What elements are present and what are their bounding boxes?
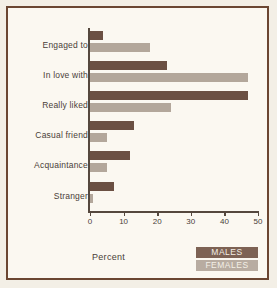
bar-females-casual-friend: [90, 133, 107, 142]
chart-legend: MALES FEMALES: [196, 247, 258, 273]
bar-males-stranger: [90, 182, 114, 191]
x-tick-label-10: 10: [119, 217, 128, 226]
bar-males-engaged-to: [90, 31, 103, 40]
x-tick-30: [191, 211, 192, 216]
x-tick-label-0: 0: [88, 217, 92, 226]
x-tick-label-50: 50: [254, 217, 263, 226]
x-tick-20: [157, 211, 158, 216]
x-axis-title: Percent: [92, 252, 125, 262]
bar-males-casual-friend: [90, 121, 134, 130]
x-tick-40: [224, 211, 225, 216]
category-label-stranger: Stranger: [0, 191, 88, 201]
x-tick-0: [90, 211, 91, 216]
x-tick-label-30: 30: [186, 217, 195, 226]
legend-label-females: FEMALES: [196, 260, 258, 271]
bar-females-acquaintance: [90, 163, 107, 172]
x-tick-10: [124, 211, 125, 216]
category-label-in-love-with: In love with: [0, 70, 88, 80]
plot-area: Engaged to In love with Really liked Cas…: [0, 0, 277, 288]
bar-males-really-liked: [90, 91, 248, 100]
bar-males-in-love-with: [90, 61, 167, 70]
bar-females-stranger: [90, 194, 93, 203]
category-label-really-liked: Really liked: [0, 100, 88, 110]
chart-page: Engaged to In love with Really liked Cas…: [0, 0, 277, 288]
x-tick-label-40: 40: [220, 217, 229, 226]
x-tick-50: [258, 211, 259, 216]
category-label-acquaintance: Acquaintance: [0, 160, 88, 170]
y-axis-line: [88, 28, 90, 211]
x-tick-label-20: 20: [153, 217, 162, 226]
x-axis-line: [88, 211, 258, 213]
legend-item-females: FEMALES: [196, 260, 258, 271]
legend-label-males: MALES: [196, 247, 258, 258]
bar-females-really-liked: [90, 103, 171, 112]
legend-item-males: MALES: [196, 247, 258, 258]
category-label-casual-friend: Casual friend: [0, 130, 88, 140]
bar-females-in-love-with: [90, 73, 248, 82]
category-label-engaged-to: Engaged to: [0, 40, 88, 50]
bar-males-acquaintance: [90, 151, 130, 160]
bar-females-engaged-to: [90, 43, 150, 52]
